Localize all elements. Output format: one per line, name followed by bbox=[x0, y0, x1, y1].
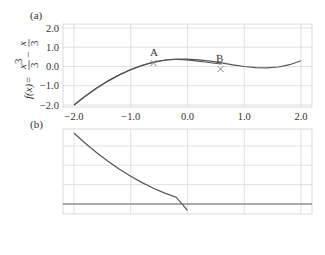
svg-text:−: − bbox=[22, 52, 34, 58]
panel-a-xticks: −2.0 −1.0 0.0 1.0 2.0 bbox=[64, 111, 307, 122]
svg-text:2.0: 2.0 bbox=[46, 23, 59, 34]
figure: (a) 2.0 1.0 0.0 −1.0 −2.0 −2.0 −1.0 0.0 bbox=[0, 0, 325, 255]
svg-text:−2.0: −2.0 bbox=[40, 100, 59, 111]
panel-a: (a) bbox=[30, 9, 312, 107]
svg-text:f(x)=: f(x)= bbox=[22, 76, 35, 99]
panel-a-ylabel: f(x)= x 3 3 − x 3 bbox=[12, 39, 40, 99]
svg-text:0.0: 0.0 bbox=[181, 111, 194, 122]
svg-text:−2.0: −2.0 bbox=[64, 111, 83, 122]
svg-text:A: A bbox=[150, 46, 158, 58]
svg-text:B: B bbox=[216, 52, 223, 64]
svg-text:0.0: 0.0 bbox=[46, 61, 59, 72]
svg-text:−1.0: −1.0 bbox=[121, 111, 140, 122]
panel-a-grid bbox=[63, 24, 312, 107]
svg-text:1.0: 1.0 bbox=[238, 111, 251, 122]
svg-text:3: 3 bbox=[28, 62, 40, 68]
panel-b-grid bbox=[63, 129, 312, 214]
svg-text:x: x bbox=[16, 41, 28, 47]
point-b: B bbox=[216, 52, 224, 72]
svg-text:−1.0: −1.0 bbox=[40, 80, 59, 91]
svg-text:1.0: 1.0 bbox=[46, 42, 59, 53]
panel-b: (b) bbox=[30, 118, 312, 214]
panel-a-yticks: 2.0 1.0 0.0 −1.0 −2.0 bbox=[40, 23, 59, 111]
panel-a-label: (a) bbox=[30, 9, 43, 22]
svg-text:2.0: 2.0 bbox=[294, 111, 307, 122]
panel-b-label: (b) bbox=[30, 118, 43, 131]
svg-text:3: 3 bbox=[28, 40, 40, 46]
